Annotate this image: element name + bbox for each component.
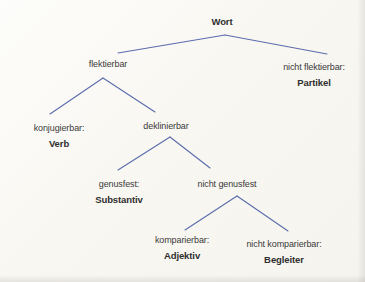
tree-diagram: Wort flektierbar nicht flektierbar: Part…: [0, 0, 365, 282]
node-nicht-genusfest-label: nicht genusfest: [197, 176, 256, 192]
node-flektierbar: flektierbar: [89, 56, 127, 72]
node-nicht-flektierbar-label: nicht flektierbar:: [283, 59, 345, 75]
node-wort-label: Wort: [211, 14, 232, 30]
edge-flektierbar-deklinierbar: [103, 78, 155, 112]
node-deklinierbar-label: deklinierbar: [143, 118, 188, 134]
node-konjugierbar: konjugierbar: Verb: [34, 120, 85, 152]
node-nicht-komparierbar-label: nicht komparierbar:: [246, 236, 321, 252]
node-wort: Wort: [211, 14, 232, 30]
edge-wort-flektierbar: [118, 35, 225, 53]
edge-flektierbar-konjugierbar: [50, 78, 103, 114]
node-flektierbar-label: flektierbar: [89, 56, 127, 72]
edge-wort-nicht-flektierbar: [225, 35, 327, 54]
node-komparierbar-label: komparierbar:: [155, 232, 209, 248]
node-nicht-komparierbar: nicht komparierbar: Begleiter: [246, 236, 321, 268]
node-genusfest: genusfest: Substantiv: [95, 176, 143, 208]
node-genusfest-label: genusfest:: [95, 176, 143, 192]
node-partikel-label: Partikel: [283, 75, 345, 91]
edge-deklinierbar-genusfest: [118, 137, 170, 170]
node-deklinierbar: deklinierbar: [143, 118, 188, 134]
edge-nicht-genusfest-komparierbar: [185, 196, 237, 230]
node-nicht-flektierbar: nicht flektierbar: Partikel: [283, 59, 345, 91]
node-komparierbar: komparierbar: Adjektiv: [155, 232, 209, 264]
edge-nicht-genusfest-nicht-komparierbar: [237, 196, 288, 231]
node-substantiv-label: Substantiv: [95, 192, 143, 208]
edge-deklinierbar-nicht-genusfest: [170, 137, 210, 168]
node-adjektiv-label: Adjektiv: [155, 248, 209, 264]
node-verb-label: Verb: [34, 136, 85, 152]
node-konjugierbar-label: konjugierbar:: [34, 120, 85, 136]
node-begleiter-label: Begleiter: [246, 252, 321, 268]
node-nicht-genusfest: nicht genusfest: [197, 176, 256, 192]
